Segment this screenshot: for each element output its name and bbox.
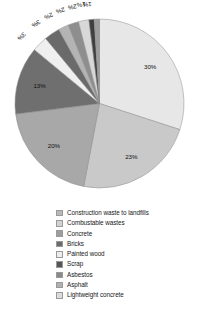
legend-swatch-icon	[56, 292, 63, 299]
legend-swatch-icon	[56, 272, 63, 279]
legend-item: Scrap	[56, 259, 196, 269]
pie-slice-label: 2%	[55, 6, 65, 15]
pie-plot-area: 30%23%20%13%3%3%2%2%2%1%1%	[0, 0, 197, 205]
legend-item-label: Asphalt	[67, 282, 88, 288]
legend-item: Asphalt	[56, 280, 196, 290]
legend-item-label: Construction waste to landfills	[67, 210, 149, 216]
legend-item-label: Painted wood	[67, 251, 105, 257]
legend-item: Lightweight concrete	[56, 290, 196, 300]
legend-item: Construction waste to landfills	[56, 208, 196, 218]
chart-legend: Construction waste to landfillsCombustab…	[56, 208, 196, 301]
legend-swatch-icon	[56, 282, 63, 289]
legend-swatch-icon	[56, 210, 63, 217]
legend-swatch-icon	[56, 251, 63, 258]
legend-item-label: Bricks	[67, 241, 84, 247]
legend-swatch-icon	[56, 220, 63, 227]
legend-item: Bricks	[56, 239, 196, 249]
legend-swatch-icon	[56, 230, 63, 237]
pie-slice-label: 23%	[125, 154, 137, 160]
pie-slice-label: 1%	[83, 1, 92, 7]
pie-slice-group	[15, 19, 184, 188]
legend-item: Concrete	[56, 229, 196, 239]
legend-item-label: Lightweight concrete	[67, 292, 124, 298]
legend-swatch-icon	[56, 241, 63, 248]
pie-slice-label: 13%	[33, 83, 45, 89]
legend-item-label: Scrap	[67, 261, 83, 267]
legend-item-label: Concrete	[67, 231, 92, 237]
legend-item: Painted wood	[56, 249, 196, 259]
pie-slice-label: 20%	[48, 143, 60, 149]
pie-svg	[0, 0, 197, 205]
pie-slice-label: 30%	[144, 64, 156, 70]
legend-item-label: Combustable wastes	[67, 220, 125, 226]
legend-item: Combustable wastes	[56, 218, 196, 228]
legend-swatch-icon	[56, 261, 63, 268]
legend-item: Asbestos	[56, 270, 196, 280]
legend-item-label: Asbestos	[67, 272, 93, 278]
pie-chart-figure: 30%23%20%13%3%3%2%2%2%1%1% Construction …	[0, 0, 197, 330]
